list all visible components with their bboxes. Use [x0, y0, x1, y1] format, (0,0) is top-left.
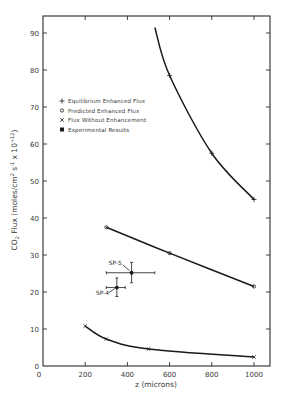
series-flux-without-enhancement — [83, 324, 255, 359]
plot-series: SP-5SP-4 — [83, 27, 256, 358]
x-tick-label: 200 — [79, 371, 92, 379]
legend-item: Equilibrium Enhanced Flux — [60, 98, 146, 105]
y-tick-label: 20 — [30, 289, 39, 297]
plus-marker-icon — [60, 99, 65, 104]
series-predicted-enhanced-flux — [105, 226, 256, 288]
x-tick-label: 600 — [163, 371, 176, 379]
legend-label: Experimental Results — [68, 127, 129, 134]
label-leader — [109, 289, 115, 293]
plot-border — [43, 16, 270, 366]
legend-label: Equilibrium Enhanced Flux — [68, 98, 146, 105]
x-axis-title: z (microns) — [135, 380, 177, 389]
y-tick-label: 40 — [30, 215, 39, 223]
y-title-flux: Flux (moles/cm — [10, 176, 19, 236]
circle-marker-icon — [60, 109, 63, 112]
series-experimental-results: SP-5SP-4 — [96, 260, 155, 297]
y-title-close: ) — [10, 130, 19, 133]
series-curve — [85, 326, 254, 357]
series-curve — [106, 227, 254, 286]
filled-square-icon — [60, 128, 64, 132]
legend: Equilibrium Enhanced FluxPredicted Enhan… — [60, 98, 147, 134]
y-tick-label: 70 — [30, 104, 39, 112]
y-tick-label: 80 — [30, 67, 39, 75]
y-title-x10: x 10 — [10, 143, 19, 162]
y-axis: 0102030405060708090 — [30, 30, 270, 371]
y-tick-label: 90 — [30, 30, 39, 38]
y-tick-label: 60 — [30, 141, 39, 149]
point-label: SP-4 — [96, 290, 109, 296]
y-tick-label: 30 — [30, 252, 39, 260]
x-tick-label: 400 — [121, 371, 134, 379]
point-label: SP-5 — [109, 260, 122, 266]
filled-circle-marker-icon — [130, 271, 134, 275]
y-tick-label: 50 — [30, 178, 39, 186]
x-marker-icon — [60, 118, 64, 122]
x-tick-label: 800 — [205, 371, 218, 379]
plot-frame — [43, 16, 270, 366]
series-curve — [155, 27, 254, 199]
legend-label: Predicted Enhanced Flux — [68, 108, 140, 114]
x-tick-label: 0 — [37, 371, 41, 379]
x-axis: 02004006008001000 — [37, 16, 263, 379]
y-axis-title: CO2 Flux (moles/cm2 s-1 x 10+12) — [9, 130, 20, 251]
y-title-sup-exp: +12 — [9, 133, 15, 144]
plus-marker-icon — [167, 73, 172, 78]
legend-item: Flux Without Enhancement — [60, 117, 147, 123]
y-tick-label: 10 — [30, 326, 39, 334]
legend-item: Experimental Results — [60, 127, 129, 134]
chart-canvas: 02004006008001000 0102030405060708090 SP… — [0, 0, 283, 403]
x-tick-label: 1000 — [245, 371, 263, 379]
filled-circle-marker-icon — [115, 286, 119, 290]
label-leader — [123, 265, 130, 271]
series-equilibrium-enhanced-flux — [155, 27, 257, 202]
legend-label: Flux Without Enhancement — [68, 117, 147, 123]
chart: 02004006008001000 0102030405060708090 SP… — [0, 0, 283, 403]
y-tick-label: 0 — [35, 363, 39, 371]
legend-item: Predicted Enhanced Flux — [60, 108, 140, 114]
y-title-co: CO — [10, 239, 19, 250]
